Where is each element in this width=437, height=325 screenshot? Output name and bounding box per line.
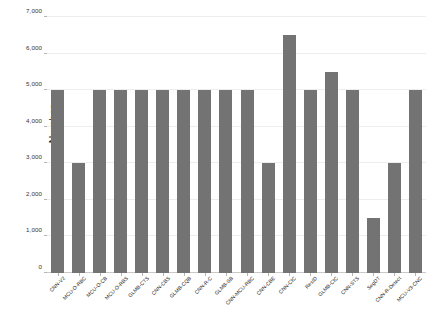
x-axis-labels: CNN-V2MCU-O-RBCMCU-O-CBMCU-O-RBSGLMB-CTS…: [47, 275, 426, 325]
y-tick-label: 4,000: [26, 116, 42, 123]
x-tick-label: CNN-CIC: [277, 275, 297, 295]
bar: [93, 90, 106, 273]
bar: [283, 35, 296, 273]
bar-series: [47, 17, 426, 273]
bar: [241, 90, 254, 273]
bar: [262, 163, 275, 273]
bar: [304, 90, 317, 273]
x-tick-label: CNN-R-C: [193, 275, 213, 295]
bar: [156, 90, 169, 273]
bar: [135, 90, 148, 273]
x-tick-label: SegDT: [366, 275, 382, 291]
x-tick-label: CNN-V2: [48, 275, 66, 293]
bar: [409, 90, 422, 273]
x-tick-label: RestD: [304, 275, 319, 290]
x-tick-label: GLMB-CIC: [317, 275, 339, 297]
bar: [219, 90, 232, 273]
y-tick-label: 1,000: [26, 226, 42, 233]
x-tick-label: CNN-STS: [340, 275, 361, 296]
bar-chart: Number 01,0002,0003,0004,0005,0006,0007,…: [0, 0, 437, 325]
y-tick-label: 7,000: [26, 7, 42, 14]
x-tick-label: CNN-CBS: [150, 275, 171, 296]
x-tick-label: CNN-CBE: [255, 275, 276, 296]
y-tick-label: 2,000: [26, 189, 42, 196]
y-tick-label: 3,000: [26, 153, 42, 160]
y-tick-label: 0: [38, 263, 42, 270]
y-tick-label: 6,000: [26, 43, 42, 50]
bar: [51, 90, 64, 273]
plot-area: 01,0002,0003,0004,0005,0006,0007,000: [47, 17, 426, 273]
bar: [388, 163, 401, 273]
x-tick-label: GLMB-SB: [213, 275, 234, 296]
bar: [114, 90, 127, 273]
bar: [346, 90, 359, 273]
bar: [325, 72, 338, 273]
bar: [367, 218, 380, 273]
bar: [72, 163, 85, 273]
bar: [198, 90, 211, 273]
bar: [177, 90, 190, 273]
y-tick-label: 5,000: [26, 80, 42, 87]
x-tick-label: GLMB-CTS: [127, 275, 150, 298]
